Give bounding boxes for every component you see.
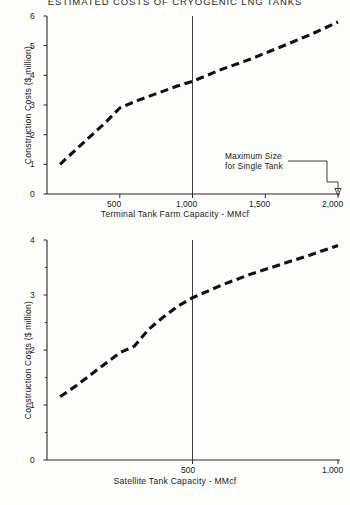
bottom-x-axis-label: Satellite Tank Capacity - MMcf [0, 476, 350, 486]
top-annotation-line2: for Single Tank [225, 161, 283, 171]
bottom-ytick-0: 0 [30, 455, 35, 465]
top-xtick-2000: 2,000 [322, 199, 343, 209]
figure-root: ESTIMATED COSTS OF CRYOGENIC LNG TANKS 6… [0, 0, 350, 505]
top-panel-text-layer: 6 5 4 3 2 1 0 500 1,000 1,500 2,000 Term… [0, 0, 350, 215]
bottom-panel-text-layer: 4 3 2 1 0 500 1,000 Satellite Tank Capac… [0, 235, 350, 505]
bottom-xtick-500: 500 [181, 465, 195, 475]
top-y-axis-label: Construction Costs ($ million) [23, 25, 33, 185]
top-x-axis-label: Terminal Tank Farm Capacity - MMcf [0, 209, 350, 219]
top-xtick-1500: 1,500 [249, 199, 270, 209]
bottom-y-axis-label: Construction Costs ($ million) [23, 280, 33, 440]
bottom-xtick-1000: 1,000 [322, 465, 343, 475]
bottom-ytick-4: 4 [30, 235, 35, 245]
top-ytick-0: 0 [30, 189, 35, 199]
top-xtick-1000: 1,000 [176, 199, 197, 209]
top-annotation-line1: Maximum Size [225, 151, 282, 161]
top-xtick-500: 500 [107, 199, 121, 209]
top-ytick-6: 6 [30, 11, 35, 21]
